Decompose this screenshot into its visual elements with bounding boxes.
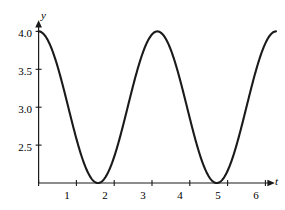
y-axis-label: y	[41, 10, 46, 21]
y-tick-label-1: 2.5	[8, 142, 32, 153]
x-tick-label-6: 6	[247, 190, 265, 201]
x-tick-label-4: 4	[171, 190, 189, 201]
chart-figure: 4.0 3.5 3.0 2.5 1 2 3 4 5 6 y t	[0, 0, 285, 210]
y-tick-label-4: 4.0	[8, 28, 32, 39]
x-tick-label-3: 3	[134, 190, 152, 201]
x-tick-label-1: 1	[58, 190, 76, 201]
y-tick-label-2: 3.0	[8, 104, 32, 115]
x-tick-label-2: 2	[96, 190, 114, 201]
x-tick-label-5: 5	[209, 190, 227, 201]
y-tick-label-3: 3.5	[8, 66, 32, 77]
plot-canvas	[0, 0, 285, 210]
curve-line	[39, 31, 276, 183]
x-axis-label: t	[275, 176, 278, 187]
